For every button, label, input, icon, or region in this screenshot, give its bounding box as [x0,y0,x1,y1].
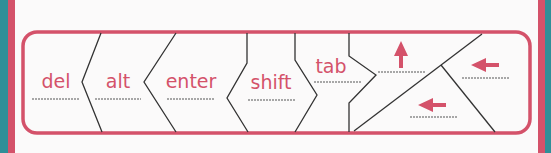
divider-del-alt [82,33,102,132]
divider-enter-shift [227,33,248,132]
key-del: del [41,72,70,91]
arrow-left-icon [418,98,446,112]
divider-arrows-lower [441,65,495,132]
divider-shift-tab [295,33,317,132]
key-tab: tab [315,57,346,76]
key-enter: enter [166,72,217,91]
arrow-up-icon [394,41,408,68]
key-alt: alt [106,72,130,91]
key-shift: shift [250,73,291,92]
arrow-left-icon [471,58,499,72]
